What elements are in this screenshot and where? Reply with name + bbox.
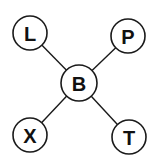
node-p-label: P (121, 26, 134, 48)
node-t: T (112, 120, 146, 154)
node-l-label: L (24, 23, 36, 45)
node-t-label: T (123, 127, 135, 149)
node-x-label: X (23, 125, 37, 147)
node-l: L (13, 16, 47, 50)
node-b: B (61, 65, 97, 101)
node-x: X (13, 118, 47, 152)
node-diagram: L P B X T (0, 0, 160, 166)
node-p: P (111, 19, 145, 53)
node-b-label: B (72, 73, 86, 95)
